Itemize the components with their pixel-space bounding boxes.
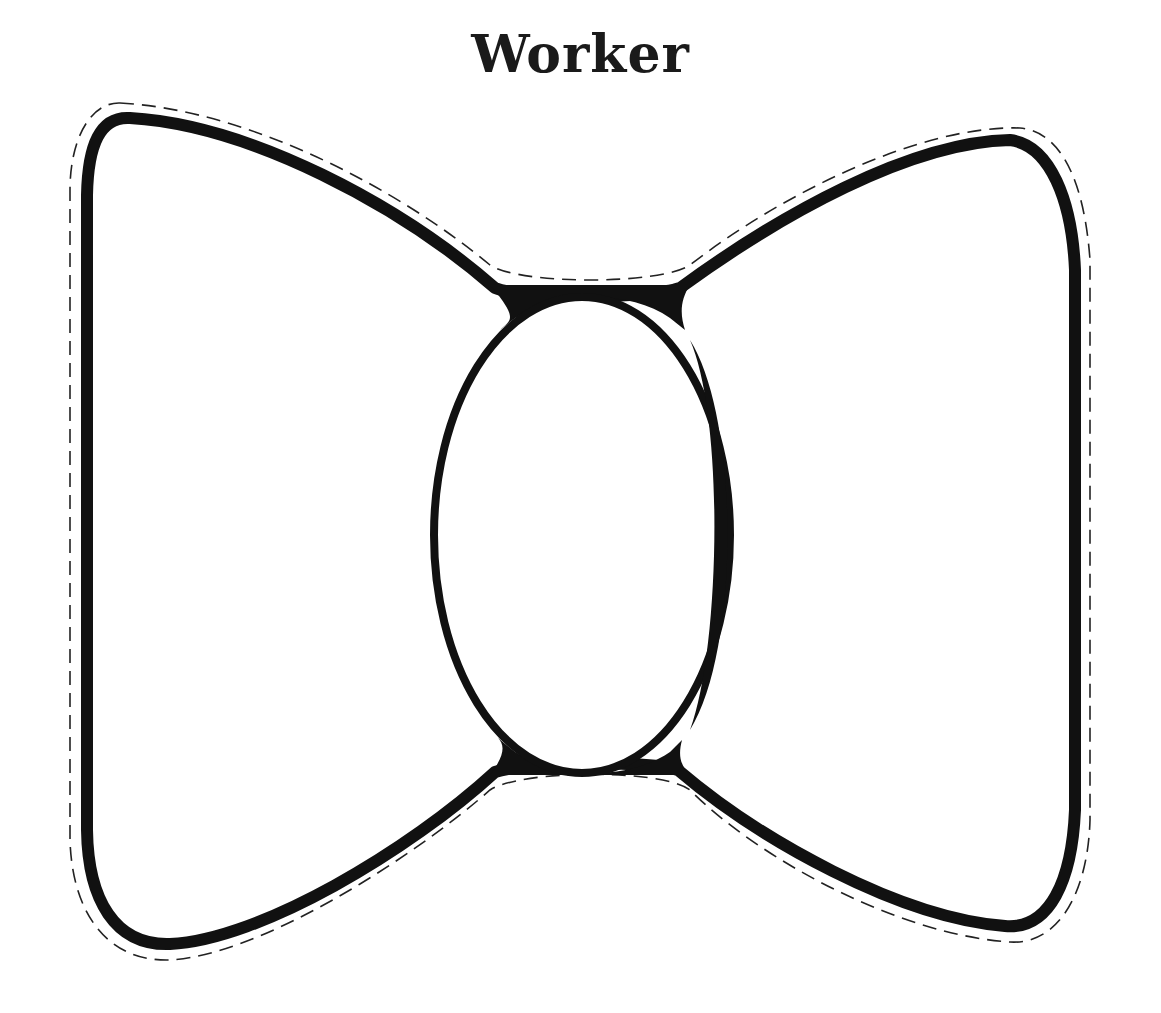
bow-tie-pattern xyxy=(0,0,1161,1013)
knot-oval xyxy=(434,297,730,773)
